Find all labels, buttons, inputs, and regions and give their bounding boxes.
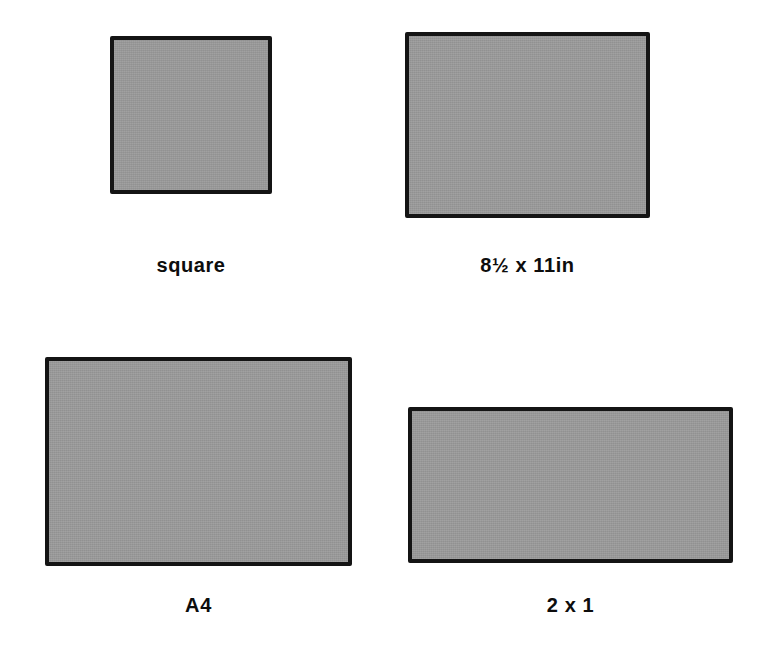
shape-label-square: square [110, 255, 272, 275]
shape-label-two-by-one: 2 x 1 [408, 595, 733, 615]
proportion-box-letter [405, 32, 650, 218]
proportion-box-two-by-one [408, 407, 733, 563]
shape-label-letter: 8½ x 11in [405, 255, 650, 275]
shape-label-a4: A4 [45, 595, 352, 615]
proportion-formats-figure: square 8½ x 11in A4 2 x 1 [0, 0, 767, 653]
proportion-box-a4 [45, 357, 352, 566]
proportion-box-square [110, 36, 272, 194]
